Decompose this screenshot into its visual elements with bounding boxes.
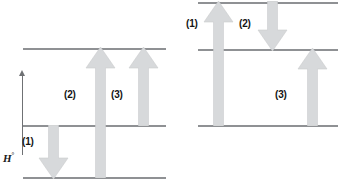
left-arrow-step-1 xyxy=(38,125,69,179)
right-arrow-step-1 xyxy=(203,1,234,126)
left-step-label-1: (1) xyxy=(22,136,34,147)
right-step-label-2: (2) xyxy=(239,18,251,29)
enthalpy-axis-label-symbol: H xyxy=(3,152,12,164)
right-step-label-3: (3) xyxy=(275,89,287,100)
left-step-label-3: (3) xyxy=(111,89,123,100)
left-arrow-step-3 xyxy=(128,47,159,126)
enthalpy-axis-label-superscript: ° xyxy=(12,151,15,159)
right-arrow-step-2 xyxy=(257,1,288,51)
enthalpy-axis-label: H° xyxy=(3,151,14,164)
right-arrow-step-3 xyxy=(297,48,328,126)
energy-level-diagram-figure: H° (1) (2) (3) xyxy=(0,0,342,187)
left-arrow-step-2 xyxy=(85,47,116,178)
right-step-label-1: (1) xyxy=(186,18,198,29)
left-step-label-2: (2) xyxy=(64,89,76,100)
